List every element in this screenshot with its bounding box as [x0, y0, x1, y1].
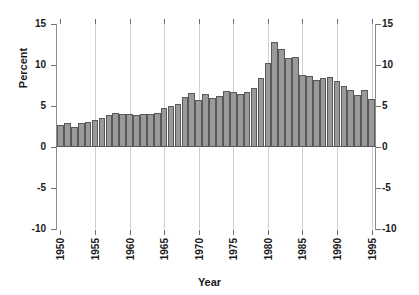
bar-1991 [341, 86, 348, 148]
bar-1950 [57, 125, 64, 147]
bar-1995 [368, 99, 375, 147]
y-tick-left-15 [51, 24, 56, 25]
bar-1966 [168, 106, 175, 147]
bar-1989 [327, 77, 334, 147]
bar-1963 [147, 114, 154, 147]
x-tick-bottom-1980 [268, 230, 269, 235]
bar-1974 [223, 91, 230, 147]
y-tick-label-right-15: 15 [382, 19, 419, 29]
bar-1958 [112, 113, 119, 147]
bar-1955 [92, 120, 99, 147]
bar-1954 [85, 122, 92, 147]
x-tick-label-1950: 1950 [55, 238, 66, 260]
y-axis-right-spine [375, 24, 376, 230]
x-tick-label-1970: 1970 [194, 238, 205, 260]
y-tick-label-right-10: 10 [382, 60, 419, 70]
bar-1953 [78, 123, 85, 147]
bar-1994 [361, 90, 368, 147]
bar-1990 [334, 81, 341, 147]
x-tick-label-1985: 1985 [297, 238, 308, 260]
chart-root: 151050-5-10 151050-5-10 1950195519601965… [0, 0, 419, 295]
bar-1983 [285, 58, 292, 147]
x-tick-label-1990: 1990 [332, 238, 343, 260]
x-tick-bottom-1955 [95, 230, 96, 235]
bar-1986 [306, 76, 313, 147]
bar-1973 [216, 96, 223, 147]
bar-1951 [64, 123, 71, 147]
y-tick-label-right--5: -5 [382, 183, 419, 193]
bar-1978 [251, 88, 258, 147]
bar-1969 [188, 93, 195, 147]
bar-1988 [320, 78, 327, 147]
y-tick-label-right--10: -10 [382, 224, 419, 234]
y-tick-right-5 [376, 106, 381, 107]
bar-1960 [126, 114, 133, 147]
bar-1964 [154, 113, 161, 147]
y-tick-right-15 [376, 24, 381, 25]
bar-1968 [182, 97, 189, 147]
bar-1962 [140, 114, 147, 147]
y-tick-label-right-5: 5 [382, 101, 419, 111]
bar-1957 [106, 115, 113, 147]
y-axis-title: Percent [17, 28, 29, 108]
y-tick-right-10 [376, 65, 381, 66]
bar-1971 [202, 94, 209, 147]
y-tick-left-0 [51, 147, 56, 148]
bar-1967 [175, 104, 182, 147]
x-tick-label-1955: 1955 [90, 238, 101, 260]
bar-1972 [209, 98, 216, 147]
bar-1976 [237, 94, 244, 147]
y-tick-label-left-0: 0 [6, 142, 46, 152]
bar-1956 [99, 118, 106, 147]
y-tick-label-right-0: 0 [382, 142, 419, 152]
x-tick-bottom-1985 [302, 230, 303, 235]
bar-1965 [161, 108, 168, 147]
x-tick-bottom-1995 [372, 230, 373, 235]
bar-1970 [195, 100, 202, 147]
x-tick-label-1980: 1980 [263, 238, 274, 260]
bar-1980 [265, 63, 272, 147]
y-tick-label-left--10: -10 [6, 224, 46, 234]
y-tick-left--5 [51, 188, 56, 189]
bar-1979 [258, 78, 265, 147]
x-tick-bottom-1965 [164, 230, 165, 235]
bar-1981 [271, 42, 278, 147]
bar-1975 [230, 92, 237, 147]
x-tick-bottom-1950 [60, 230, 61, 235]
y-tick-right--10 [376, 229, 381, 230]
y-tick-left-5 [51, 106, 56, 107]
x-tick-label-1975: 1975 [228, 238, 239, 260]
bar-1985 [299, 75, 306, 147]
y-tick-label-left--5: -5 [6, 183, 46, 193]
x-tick-label-1995: 1995 [367, 238, 378, 260]
bar-1987 [313, 80, 320, 147]
bar-1982 [278, 49, 285, 147]
y-tick-right-0 [376, 147, 381, 148]
bar-1992 [347, 90, 354, 147]
x-tick-label-1960: 1960 [125, 238, 136, 260]
bar-1952 [71, 127, 78, 148]
x-tick-bottom-1990 [337, 230, 338, 235]
x-tick-bottom-1975 [233, 230, 234, 235]
y-tick-right--5 [376, 188, 381, 189]
bar-1959 [119, 114, 126, 147]
x-tick-label-1965: 1965 [159, 238, 170, 260]
x-tick-bottom-1960 [130, 230, 131, 235]
bar-1984 [292, 57, 299, 147]
x-axis-title: Year [0, 276, 419, 288]
bar-1993 [354, 95, 361, 147]
y-tick-left-10 [51, 65, 56, 66]
bar-1977 [244, 92, 251, 147]
bar-1961 [133, 115, 140, 147]
x-tick-bottom-1970 [199, 230, 200, 235]
bar-series [57, 24, 375, 147]
y-tick-left--10 [51, 229, 56, 230]
